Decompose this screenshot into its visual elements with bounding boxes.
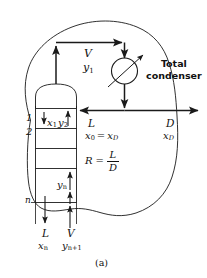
bottom-liquid-comp-subscript: n (44, 244, 48, 252)
vapor-stage2-label: y2 (58, 118, 68, 129)
reflux-ratio-denominator: D (107, 162, 119, 173)
distillate-flow-label: D (166, 118, 174, 129)
bottom-vapor-composition-label: yn+1 (62, 241, 82, 252)
bottom-liquid-flow-label: L (42, 228, 49, 239)
total-condenser-label: Total condenser (146, 58, 202, 82)
reflux-ratio-symbol: R (85, 155, 93, 166)
bottom-liquid-composition-label: xn (38, 241, 48, 252)
vapor-stage-n-subscript: n (63, 183, 67, 191)
reflux-comp-equals: = (95, 130, 107, 141)
reflux-ratio-numerator: L (107, 150, 119, 162)
bottom-vapor-flow-label: V (67, 228, 75, 239)
reflux-flow-label: L (88, 118, 95, 129)
reflux-ratio-definition: R=LD (85, 150, 119, 173)
distillate-composition-label: xD (163, 131, 174, 142)
column-dome-top (36, 84, 77, 108)
liquid-stage1-subscript: 1 (53, 121, 57, 129)
stage-2-number: 2 (26, 127, 32, 137)
stage-n-number: n (25, 196, 31, 205)
reflux-composition-label: x0=xD (85, 131, 118, 142)
vapor-stage-n-label: yn (57, 180, 67, 191)
vapor-stage2-subscript: 2 (64, 121, 68, 129)
reflux-ratio-fraction: LD (107, 150, 119, 173)
total-condenser-label-line1: Total (161, 58, 187, 69)
overhead-vapor-comp-subscript: 1 (89, 66, 94, 75)
liquid-stage1-label: x1 (47, 118, 57, 129)
total-condenser-label-line2: condenser (146, 70, 202, 81)
stage-1-number: 1 (26, 113, 32, 123)
figure-caption: (a) (95, 258, 108, 268)
reflux-ratio-equals: = (93, 155, 107, 166)
bottom-vapor-comp-subscript: n+1 (68, 244, 82, 252)
overhead-vapor-composition-label: y1 (83, 62, 94, 74)
reflux-comp-right-subscript: D (113, 134, 118, 142)
overhead-vapor-flow-label: V (84, 48, 92, 59)
distillate-comp-subscript: D (169, 134, 174, 142)
